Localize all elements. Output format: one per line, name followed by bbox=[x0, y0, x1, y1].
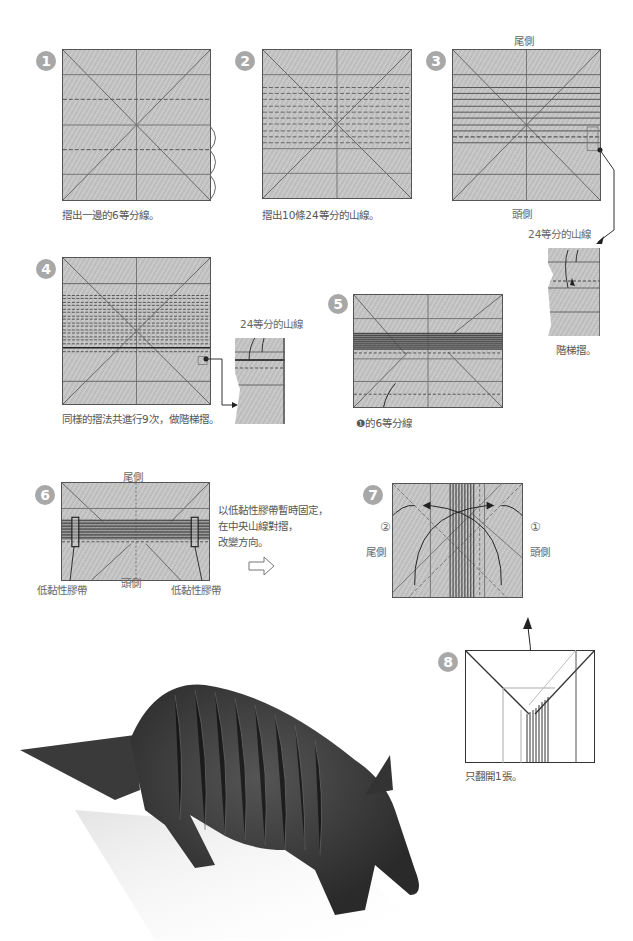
step-7-diagram bbox=[392, 483, 523, 598]
step-6-head-label: 頭側 bbox=[121, 575, 141, 590]
step-4-caption: 同樣的摺法共進行9次，做階梯摺。 bbox=[62, 411, 219, 426]
step-badge-4: 4 bbox=[36, 259, 56, 279]
step-4-callout: 24等分的山線 bbox=[240, 316, 303, 331]
step-2-caption: 摺出10條24等分的山線。 bbox=[262, 207, 379, 222]
step-3-head-label: 頭側 bbox=[512, 206, 532, 221]
step-6-instruction-2: 在中央山線對摺， bbox=[218, 518, 298, 533]
step-4-stepfold-detail bbox=[235, 338, 285, 424]
step-1-caption: 摺出一邊的6等分線。 bbox=[62, 207, 159, 222]
tape-label-left: 低黏性膠帶 bbox=[37, 582, 87, 597]
step-3-stepfold-detail bbox=[548, 248, 600, 336]
step-badge-6: 6 bbox=[35, 485, 55, 505]
step-3-tail-label: 尾側 bbox=[514, 33, 534, 48]
step-badge-5: 5 bbox=[328, 294, 348, 314]
step-badge-1: 1 bbox=[36, 51, 56, 71]
step-1-diagram bbox=[62, 49, 211, 201]
step-6-instruction-3: 改變方向。 bbox=[218, 534, 268, 549]
step-badge-2: 2 bbox=[235, 51, 255, 71]
step-3-detail-caption: 階梯摺。 bbox=[556, 342, 596, 357]
next-step-arrow-icon bbox=[248, 556, 276, 576]
step-2-diagram bbox=[262, 49, 412, 199]
tape-label-right: 低黏性膠帶 bbox=[171, 582, 221, 597]
armadillo-photo bbox=[15, 640, 455, 940]
step-8-diagram bbox=[465, 650, 595, 763]
step-3-pointer-arrow bbox=[590, 140, 630, 250]
step-4-pointer-arrow bbox=[200, 355, 240, 415]
step-7-head-label: 頭側 bbox=[530, 544, 550, 559]
step-8-caption: 只翻開1張。 bbox=[465, 768, 522, 783]
step-5-caption: ❶的6等分線 bbox=[356, 415, 412, 430]
step-5-diagram bbox=[353, 294, 503, 408]
step-6-instruction-1: 以低黏性膠帶暫時固定， bbox=[218, 502, 328, 517]
step-7-marker-2: ② bbox=[380, 520, 391, 534]
step-3-callout: 24等分的山線 bbox=[528, 226, 591, 241]
step-7-marker-1: ① bbox=[530, 520, 541, 534]
step-7-tail-label: 尾側 bbox=[366, 544, 386, 559]
step-3-diagram bbox=[452, 49, 601, 201]
step-4-diagram bbox=[62, 257, 211, 405]
equal-division-brackets bbox=[209, 124, 225, 204]
step-badge-7: 7 bbox=[363, 485, 383, 505]
step-badge-3: 3 bbox=[426, 51, 446, 71]
